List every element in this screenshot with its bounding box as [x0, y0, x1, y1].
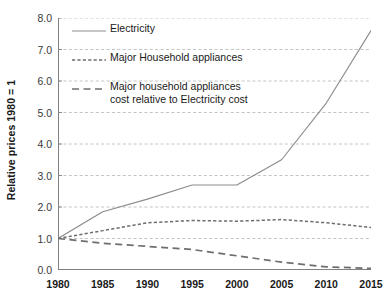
legend-item: Major household appliances cost relative…	[72, 80, 322, 105]
chart-figure: Relative prices 1980 = 1 0.01.02.03.04.0…	[0, 0, 389, 307]
legend-label: Electricity	[110, 22, 155, 35]
legend-line-swatch	[72, 23, 106, 35]
series-line-2	[58, 220, 371, 239]
x-tick-label: 2010	[315, 278, 338, 290]
x-tick-label: 1990	[136, 278, 159, 290]
legend-item: Major Household appliances	[72, 51, 322, 64]
x-tick-label: 1980	[46, 278, 69, 290]
legend-item: Electricity	[72, 22, 322, 35]
chart-legend: ElectricityMajor Household appliancesMaj…	[72, 22, 322, 121]
x-tick-label: 2015	[359, 278, 382, 290]
legend-line-swatch	[72, 81, 106, 93]
legend-label: Major Household appliances	[110, 51, 243, 64]
series-line-3	[58, 239, 371, 269]
x-tick-label: 1995	[180, 278, 203, 290]
x-tick-label: 2000	[225, 278, 248, 290]
legend-line-swatch	[72, 52, 106, 64]
legend-label: Major household appliances cost relative…	[110, 80, 248, 105]
x-tick-label: 1985	[91, 278, 114, 290]
x-tick-label: 2005	[270, 278, 293, 290]
